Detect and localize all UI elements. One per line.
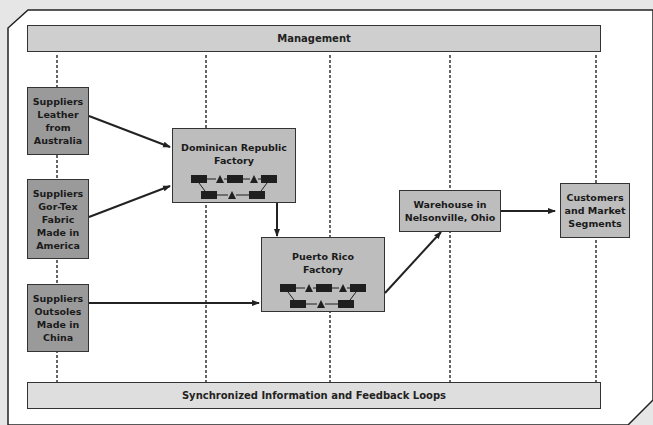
- supplier-text: Made in: [37, 226, 79, 239]
- puerto-rico-factory: Puerto Rico Factory: [261, 237, 385, 312]
- supplier-text: Made in: [37, 318, 79, 331]
- dominican-republic-factory: Dominican Republic Factory: [172, 128, 296, 203]
- management-label: Management: [277, 33, 351, 44]
- supplier-text: Suppliers: [33, 292, 84, 305]
- factory-text: Puerto Rico: [292, 250, 354, 263]
- feedback-band: Synchronized Information and Feedback Lo…: [27, 382, 601, 409]
- diagram-canvas: [0, 0, 653, 425]
- customers-text: and Market: [565, 204, 626, 217]
- feedback-label: Synchronized Information and Feedback Lo…: [182, 390, 446, 401]
- supplier-leather-australia: Suppliers Leather from Australia: [27, 87, 89, 155]
- factory-text: Factory: [303, 263, 343, 276]
- supplier-text: Australia: [34, 134, 82, 147]
- management-band: Management: [27, 25, 601, 52]
- factory-text: Factory: [214, 154, 254, 167]
- customers-text: Customers: [566, 191, 623, 204]
- supplier-text: Gor-Tex: [38, 200, 77, 213]
- supplier-text: America: [36, 239, 80, 252]
- supplier-text: from: [45, 121, 70, 134]
- process-flow-icon: [191, 173, 277, 201]
- customers-market-segments: Customers and Market Segments: [560, 183, 630, 238]
- warehouse-text: Nelsonville, Ohio: [405, 211, 496, 224]
- supplier-text: Suppliers: [33, 95, 84, 108]
- supplier-text: Leather: [37, 108, 78, 121]
- supplier-outsoles-china: Suppliers Outsoles Made in China: [27, 284, 89, 352]
- supplier-text: China: [43, 331, 73, 344]
- customers-text: Segments: [568, 217, 621, 230]
- supplier-text: Fabric: [42, 213, 75, 226]
- supplier-goretex-america: Suppliers Gor-Tex Fabric Made in America: [27, 179, 89, 259]
- process-flow-icon: [280, 282, 366, 310]
- factory-text: Dominican Republic: [181, 141, 287, 154]
- supplier-text: Outsoles: [35, 305, 82, 318]
- warehouse-text: Warehouse in: [413, 198, 486, 211]
- warehouse-nelsonville: Warehouse in Nelsonville, Ohio: [399, 190, 501, 232]
- supplier-text: Suppliers: [33, 187, 84, 200]
